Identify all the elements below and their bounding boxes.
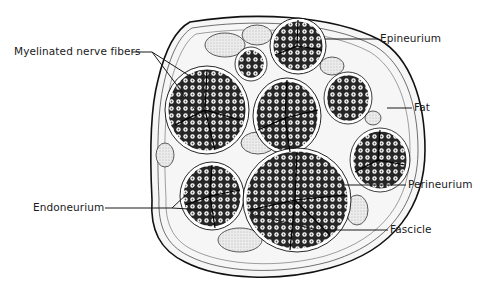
label-myelinated-nerve-fibers: Myelinated nerve fibers	[14, 45, 141, 57]
label-fascicle: Fascicle	[390, 223, 432, 235]
label-perineurium: Perineurium	[408, 178, 473, 190]
label-endoneurium: Endoneurium	[33, 201, 104, 213]
label-epineurium: Epineurium	[380, 32, 441, 44]
label-fat: Fat	[414, 101, 430, 113]
